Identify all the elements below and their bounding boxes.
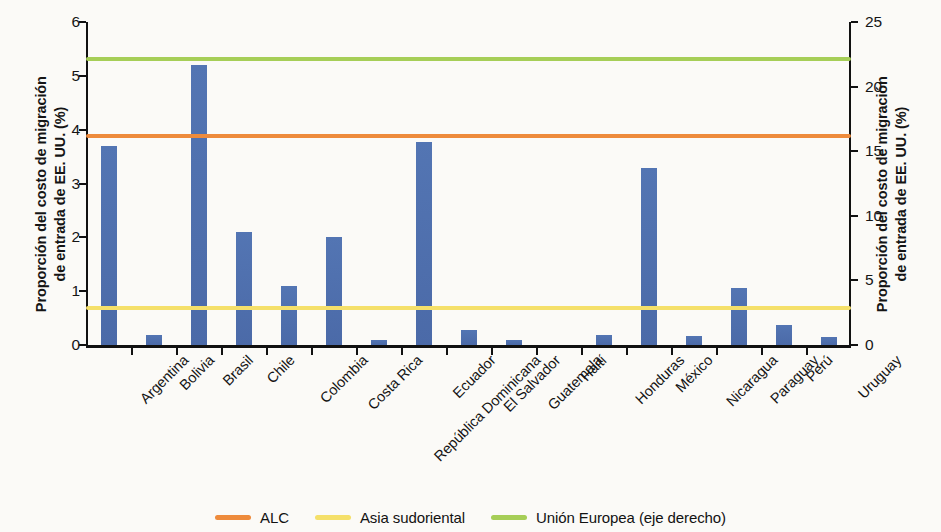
x-axis-label: Colombia xyxy=(316,352,370,406)
bar xyxy=(686,336,702,345)
y-axis-right-line xyxy=(849,22,851,347)
bar xyxy=(236,232,252,345)
y-axis-right-tick-label: 20 xyxy=(865,79,905,95)
x-axis-line xyxy=(86,345,851,348)
x-axis-labels: ArgentinaBoliviaBrasilChileColombiaCosta… xyxy=(86,350,851,470)
y-axis-left-tick-label: 6 xyxy=(40,14,80,30)
y-axis-right-tick xyxy=(851,150,858,152)
x-axis-label: Chile xyxy=(263,352,297,386)
bar xyxy=(416,142,432,345)
y-axis-left-tick xyxy=(79,129,86,131)
bar xyxy=(461,330,477,345)
bar xyxy=(821,337,837,345)
x-axis-label: Uruguay xyxy=(854,352,904,402)
y-axis-left-tick xyxy=(79,344,86,346)
legend-item[interactable]: Unión Europea (eje derecho) xyxy=(491,509,726,526)
bar xyxy=(776,325,792,345)
y-axis-left-tick xyxy=(79,75,86,77)
legend-label: Unión Europea (eje derecho) xyxy=(536,509,726,526)
bar xyxy=(371,340,387,345)
chart-legend: ALCAsia sudorientalUnión Europea (eje de… xyxy=(0,509,941,526)
y-axis-right-title-line1: Proporción del costo de migración xyxy=(873,59,892,329)
bar xyxy=(326,237,342,345)
legend-item[interactable]: Asia sudoriental xyxy=(315,509,465,526)
bar xyxy=(641,168,657,345)
y-axis-left-tick xyxy=(79,236,86,238)
plot-area: 0123456 0510152025 xyxy=(86,22,851,347)
reference-line xyxy=(86,57,851,61)
y-axis-right-tick-label: 0 xyxy=(865,337,905,353)
y-axis-left-tick-label: 0 xyxy=(40,337,80,353)
y-axis-left-tick-label: 1 xyxy=(40,283,80,299)
y-axis-left-line xyxy=(86,22,88,347)
y-axis-right-tick xyxy=(851,215,858,217)
legend-item[interactable]: ALC xyxy=(215,509,289,526)
legend-label: Asia sudoriental xyxy=(360,509,465,526)
y-axis-left-tick-label: 3 xyxy=(40,176,80,192)
y-axis-right-tick xyxy=(851,21,858,23)
y-axis-right-tick xyxy=(851,344,858,346)
y-axis-right-tick-label: 5 xyxy=(865,272,905,288)
x-axis-label: Nicaragua xyxy=(723,352,780,409)
bar xyxy=(596,335,612,345)
legend-swatch-icon xyxy=(491,515,527,520)
y-axis-left-tick xyxy=(79,183,86,185)
y-axis-left-tick xyxy=(79,21,86,23)
x-axis-label: Costa Rica xyxy=(364,352,425,413)
y-axis-right-title-line2: de entrada de EE. UU. (%) xyxy=(892,59,911,329)
chart-container: Proporción del costo de migración de ent… xyxy=(0,0,941,532)
y-axis-right-tick-label: 15 xyxy=(865,143,905,159)
reference-line xyxy=(86,306,851,310)
legend-swatch-icon xyxy=(215,515,251,520)
y-axis-left-tick-label: 4 xyxy=(40,122,80,138)
y-axis-left-tick-label: 5 xyxy=(40,68,80,84)
bar xyxy=(146,335,162,345)
y-axis-left-tick xyxy=(79,290,86,292)
bar xyxy=(281,286,297,345)
y-axis-right-tick xyxy=(851,86,858,88)
reference-line xyxy=(86,134,851,138)
legend-label: ALC xyxy=(260,509,289,526)
bar xyxy=(506,340,522,345)
y-axis-right-tick-label: 10 xyxy=(865,208,905,224)
y-axis-right-title: Proporción del costo de migración de ent… xyxy=(873,59,911,329)
x-axis-label: Brasil xyxy=(219,352,256,389)
y-axis-right-tick xyxy=(851,279,858,281)
bar xyxy=(101,146,117,345)
y-axis-right-tick-label: 25 xyxy=(865,14,905,30)
bar xyxy=(191,65,207,345)
y-axis-left-tick-label: 2 xyxy=(40,229,80,245)
bar xyxy=(731,288,747,345)
legend-swatch-icon xyxy=(315,515,351,520)
